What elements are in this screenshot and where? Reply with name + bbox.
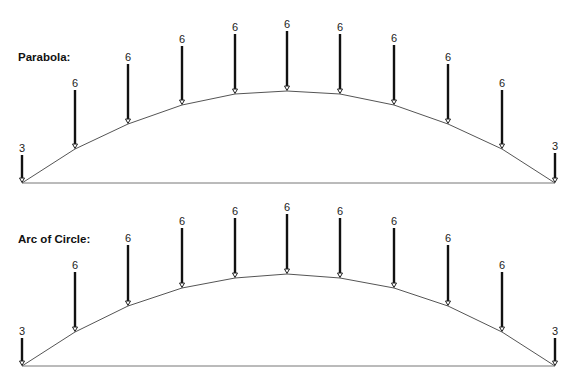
- arrowhead-down-icon: [285, 86, 290, 91]
- arrowhead-down-icon: [446, 119, 451, 124]
- load-value-label: 6: [179, 215, 185, 227]
- load-arrow: 3: [19, 142, 25, 183]
- arrowhead-down-icon: [126, 301, 131, 306]
- arch-curve: [22, 274, 555, 366]
- arrowhead-down-icon: [446, 301, 451, 306]
- arrowhead-down-icon: [180, 100, 185, 105]
- load-arrow: 6: [179, 33, 185, 105]
- load-arrow: 6: [337, 21, 343, 94]
- load-arrow: 6: [284, 18, 290, 91]
- load-arrow: 3: [552, 325, 558, 366]
- load-arrow: 6: [125, 232, 131, 306]
- arc-of-circle-diagram: Arc of Circle: 36666666663: [18, 201, 558, 367]
- load-arrow: 6: [391, 215, 397, 288]
- load-arrow: 6: [391, 32, 397, 105]
- load-arrow: 6: [72, 77, 78, 149]
- load-value-label: 3: [19, 325, 25, 337]
- load-value-label: 6: [72, 259, 78, 271]
- load-arrow: 6: [445, 51, 451, 124]
- load-value-label: 6: [499, 77, 505, 89]
- load-arrow: 6: [232, 21, 238, 94]
- arrowhead-down-icon: [180, 283, 185, 288]
- arrowhead-down-icon: [392, 283, 397, 288]
- load-value-label: 6: [232, 205, 238, 217]
- arrowhead-down-icon: [285, 269, 290, 274]
- load-value-label: 6: [445, 232, 451, 244]
- arch-curve: [22, 91, 555, 183]
- load-arrow: 6: [445, 232, 451, 306]
- load-value-label: 6: [391, 215, 397, 227]
- load-value-label: 6: [337, 205, 343, 217]
- load-value-label: 6: [499, 259, 505, 271]
- arrowhead-down-icon: [338, 273, 343, 278]
- load-value-label: 6: [72, 77, 78, 89]
- load-arrow: 6: [284, 201, 290, 274]
- load-value-label: 3: [552, 325, 558, 337]
- load-arrow: 6: [232, 205, 238, 278]
- load-arrow: 6: [337, 205, 343, 278]
- load-arrow: 6: [72, 259, 78, 332]
- load-arrow: 6: [499, 77, 505, 149]
- arrowhead-down-icon: [392, 100, 397, 105]
- load-value-label: 6: [284, 201, 290, 213]
- arrowhead-down-icon: [233, 89, 238, 94]
- arrowhead-down-icon: [126, 119, 131, 124]
- parabola-diagram: Parabola: 36666666663: [18, 18, 558, 184]
- load-arrow: 6: [499, 259, 505, 332]
- load-value-label: 3: [19, 142, 25, 154]
- load-value-label: 6: [445, 51, 451, 63]
- load-value-label: 6: [337, 21, 343, 33]
- load-arrow: 6: [125, 51, 131, 124]
- load-value-label: 6: [125, 51, 131, 63]
- load-arrow: 6: [179, 215, 185, 288]
- arrowhead-down-icon: [338, 89, 343, 94]
- arch-load-diagrams: Parabola: 36666666663 Arc of Circle: 366…: [0, 0, 578, 382]
- load-arrow: 3: [19, 325, 25, 366]
- load-value-label: 6: [179, 33, 185, 45]
- load-value-label: 6: [391, 32, 397, 44]
- load-value-label: 6: [232, 21, 238, 33]
- load-value-label: 6: [125, 232, 131, 244]
- diagram-title: Arc of Circle:: [18, 233, 90, 245]
- load-value-label: 6: [284, 18, 290, 30]
- diagram-title: Parabola:: [18, 51, 70, 63]
- load-value-label: 3: [552, 140, 558, 152]
- arrowhead-down-icon: [233, 273, 238, 278]
- load-arrow: 3: [552, 140, 558, 183]
